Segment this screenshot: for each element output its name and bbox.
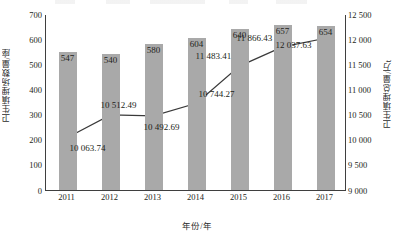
bar-2013 <box>145 44 163 190</box>
bar-2015 <box>231 29 249 190</box>
axis-tick-label: 700 <box>29 11 42 20</box>
axis-tick-label: 10 500 <box>348 111 371 120</box>
axis-tick-label: 10 000 <box>348 136 371 145</box>
x-axis-title: 年份/年 <box>0 219 394 231</box>
x-tick-label-2011: 2011 <box>45 193 88 202</box>
axis-tick-label: 11 000 <box>348 86 371 95</box>
line-value-label-2015: 11 483.41 <box>196 52 232 61</box>
axis-tick-label: 500 <box>29 61 42 70</box>
y-axis-ticks-right: 12 50012 00011 50011 00010 50010 0009 50… <box>348 0 392 233</box>
bar-value-label-2012: 540 <box>93 56 129 65</box>
axis-tick-label: 9 000 <box>348 187 367 196</box>
axis-tick-label: 400 <box>29 86 42 95</box>
bar-value-label-2014: 604 <box>179 40 215 49</box>
cropped-caption-remnant <box>0 0 394 4</box>
axis-tick-label: 9 500 <box>348 161 367 170</box>
line-value-label-2011: 10 063.74 <box>70 144 106 153</box>
x-tick-label-2017: 2017 <box>303 193 346 202</box>
axis-tick-label: 200 <box>29 136 42 145</box>
x-axis-ticks: 2011201220132014201520162017 <box>45 193 346 205</box>
x-tick-label-2015: 2015 <box>217 193 260 202</box>
line-value-label-2012: 10 512.49 <box>101 101 137 110</box>
bar-value-label-2017: 654 <box>308 28 344 37</box>
bar-2011 <box>59 52 77 190</box>
axis-tick-label: 100 <box>29 161 42 170</box>
axis-tick-label: 0 <box>38 187 42 196</box>
chart-figure: 卫生填埋场数量/座 卫生填埋总量/万t 年份/年 700600500400300… <box>0 0 394 233</box>
line-value-label-2014: 10 744.27 <box>199 90 235 99</box>
axis-tick-label: 12 500 <box>348 11 371 20</box>
axis-tick-label: 11 500 <box>348 61 371 70</box>
axis-tick-label: 12 000 <box>348 36 371 45</box>
line-value-label-2017: 12 037.63 <box>276 41 312 50</box>
bar-value-label-2011: 547 <box>50 54 86 63</box>
axis-tick-label: 600 <box>29 36 42 45</box>
line-value-label-2016: 11 866.43 <box>237 34 273 43</box>
bar-2017 <box>317 26 335 190</box>
x-tick-label-2016: 2016 <box>260 193 303 202</box>
bar-2012 <box>102 54 120 190</box>
x-tick-label-2013: 2013 <box>131 193 174 202</box>
axis-tick-label: 300 <box>29 111 42 120</box>
plot-area: 54754058060464065765410 063.7410 512.491… <box>45 15 346 191</box>
x-tick-label-2012: 2012 <box>88 193 131 202</box>
y-axis-ticks-left: 7006005004003002001000 <box>12 0 42 233</box>
line-value-label-2013: 10 492.69 <box>144 123 180 132</box>
bar-value-label-2013: 580 <box>136 46 172 55</box>
x-tick-label-2014: 2014 <box>174 193 217 202</box>
